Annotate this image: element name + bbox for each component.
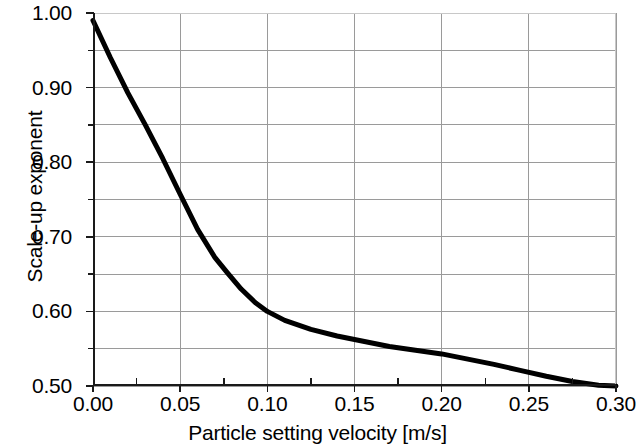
y-axis-title: Scale-up exponent — [24, 47, 45, 347]
x-tick-label: 0.00 — [73, 393, 113, 414]
x-tick-label: 0.10 — [247, 393, 287, 414]
axis-frame-and-ticks — [93, 13, 616, 386]
x-tick-label: 0.05 — [160, 393, 200, 414]
x-axis-title: Particle setting velocity [m/s] — [0, 421, 635, 444]
x-axis-tick-labels: 0.000.050.100.150.200.250.30 — [93, 393, 616, 421]
plot-area — [93, 13, 616, 386]
x-tick-label: 0.20 — [422, 393, 462, 414]
x-tick-label: 0.15 — [334, 393, 374, 414]
x-tick-label: 0.30 — [596, 393, 636, 414]
y-tick-label: 1.00 — [32, 2, 84, 23]
x-tick-label: 0.25 — [509, 393, 549, 414]
